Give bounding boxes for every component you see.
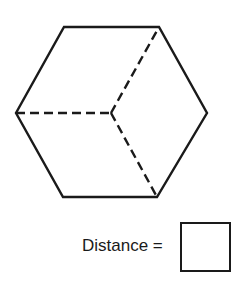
hidden-edge-top-right — [111, 27, 159, 113]
distance-answer-box[interactable] — [180, 222, 231, 272]
hidden-edge-bottom-right — [111, 113, 157, 197]
cube-diagram — [0, 0, 238, 210]
distance-label: Distance = — [82, 236, 163, 256]
